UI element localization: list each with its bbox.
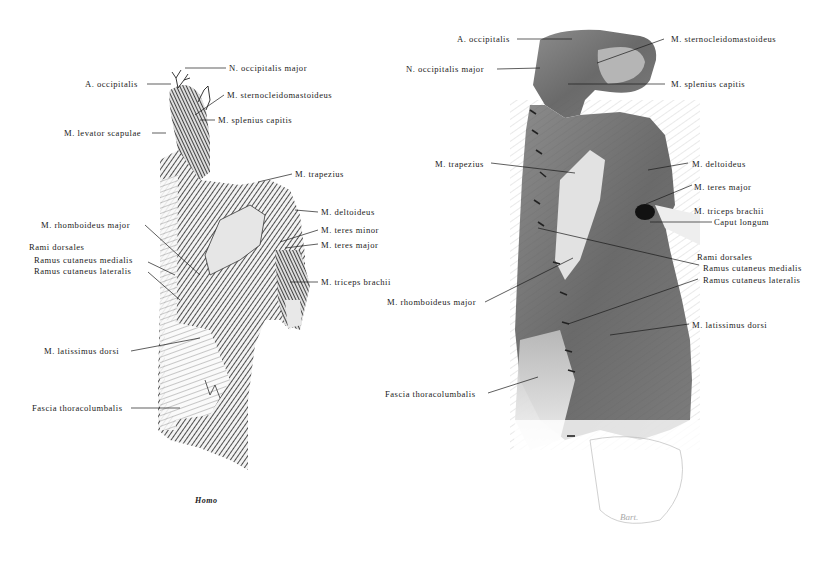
- label-right-ramus-cutaneus-lateralis: Ramus cutaneus lateralis: [703, 275, 800, 285]
- label-right-m-teres-major: M. teres major: [694, 182, 751, 192]
- label-right-m-triceps-brachii: M. triceps brachii: [694, 206, 764, 216]
- label-right-a-occipitalis: A. occipitalis: [457, 34, 510, 44]
- label-right-m-trapezius: M. trapezius: [435, 159, 484, 169]
- left-figure: [158, 70, 310, 470]
- label-left-m-splenius-capitis: M. splenius capitis: [218, 115, 292, 125]
- label-right-n-occipitalis-major: N. occipitalis major: [406, 64, 484, 74]
- label-right-m-splenius-capitis: M. splenius capitis: [671, 79, 745, 89]
- label-left-m-triceps-brachii: M. triceps brachii: [321, 277, 391, 287]
- label-right-fascia-thoracolumbalis: Fascia thoracolumbalis: [385, 389, 475, 399]
- label-left-m-latissimus-dorsi: M. latissimus dorsi: [44, 346, 119, 356]
- label-right-caput-longum: Caput longum: [714, 217, 769, 227]
- label-left-m-sternocleidomastoideus: M. sternocleidomastoideus: [227, 90, 332, 100]
- label-right-m-rhomboideus-major: M. rhomboideus major: [387, 297, 476, 307]
- label-right-m-latissimus-dorsi: M. latissimus dorsi: [692, 320, 767, 330]
- label-right-m-deltoideus: M. deltoideus: [692, 159, 746, 169]
- svg-text:Bart.: Bart.: [620, 512, 638, 522]
- label-left-m-levator-scapulae: M. levator scapulae: [64, 128, 141, 138]
- label-left-ramus-cutaneus-lateralis: Ramus cutaneus lateralis: [34, 266, 131, 276]
- label-left-a-occipitalis: A. occipitalis: [85, 79, 138, 89]
- label-left-m-trapezius: M. trapezius: [295, 169, 344, 179]
- label-left-m-deltoideus: M. deltoideus: [321, 207, 375, 217]
- label-right-ramus-cutaneus-medialis: Ramus cutaneus medialis: [703, 263, 802, 273]
- label-right-m-sternocleidomastoideus: M. sternocleidomastoideus: [671, 34, 776, 44]
- label-left-ramus-cutaneus-medialis: Ramus cutaneus medialis: [34, 255, 133, 265]
- label-right-rami-dorsales: Rami dorsales: [697, 252, 752, 262]
- label-left-n-occipitalis-major: N. occipitalis major: [229, 63, 307, 73]
- anatomical-plate: Bart.: [0, 0, 839, 562]
- label-left-fascia-thoracolumbalis: Fascia thoracolumbalis: [32, 403, 122, 413]
- label-left-rami-dorsales: Rami dorsales: [29, 242, 84, 252]
- label-left-m-teres-major: M. teres major: [321, 240, 378, 250]
- label-left-m-teres-minor: M. teres minor: [321, 225, 379, 235]
- right-figure: Bart.: [510, 30, 700, 540]
- figure-caption-homo: Homo: [195, 496, 217, 505]
- label-left-m-rhomboideus-major: M. rhomboideus major: [41, 220, 130, 230]
